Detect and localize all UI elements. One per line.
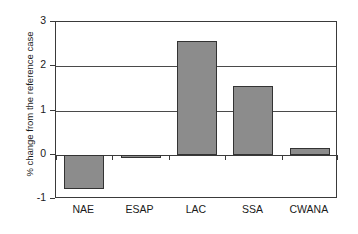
x-tick-label-cwana: CWANA xyxy=(281,203,337,216)
x-tick-label-nae: NAE xyxy=(55,203,111,216)
y-tick-label-0: 0 xyxy=(0,148,46,159)
y-tick-mark xyxy=(50,198,55,199)
bar-ssa[interactable] xyxy=(233,86,273,155)
y-tick-label-3: 3 xyxy=(0,15,46,26)
bar-lac[interactable] xyxy=(177,41,217,155)
y-tick-label-1: 1 xyxy=(0,104,46,115)
zero-tick-mark xyxy=(112,155,113,160)
bar-esap[interactable] xyxy=(121,155,161,159)
zero-tick-mark xyxy=(282,155,283,160)
zero-tick-mark xyxy=(169,155,170,160)
y-tick-label-neg1: -1 xyxy=(0,192,46,203)
bar-chart: % change from the reference case 3210-1 … xyxy=(0,0,358,234)
x-tick-label-esap: ESAP xyxy=(111,203,167,216)
x-tick-label-lac: LAC xyxy=(168,203,224,216)
bar-nae[interactable] xyxy=(64,155,104,189)
x-tick-label-ssa: SSA xyxy=(224,203,280,216)
bar-cwana[interactable] xyxy=(290,148,330,155)
zero-tick-mark xyxy=(225,155,226,160)
plot-area xyxy=(55,21,337,198)
zero-tick-mark xyxy=(56,155,57,160)
y-tick-label-2: 2 xyxy=(0,59,46,70)
zero-tick-mark xyxy=(337,155,338,160)
